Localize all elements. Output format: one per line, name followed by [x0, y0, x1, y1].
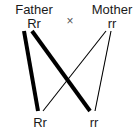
- offspring-genotype-right: rr: [80, 116, 108, 130]
- line-father-to-offspring-right: [32, 31, 90, 111]
- parent-mother-label: Mother: [86, 3, 138, 17]
- parent-mother: Mother rr: [86, 3, 138, 31]
- cross-multiplication-symbol: ×: [56, 15, 84, 27]
- line-mother-to-offspring-left: [43, 31, 106, 111]
- parent-father-genotype: Rr: [8, 17, 60, 31]
- line-mother-to-offspring-right: [95, 31, 111, 111]
- genetic-cross-diagram: Father Rr × Mother rr Rr rr: [0, 0, 138, 137]
- parent-father: Father Rr: [8, 3, 60, 31]
- line-father-to-offspring-left: [24, 31, 38, 111]
- offspring-genotype-left: Rr: [26, 116, 54, 130]
- parent-mother-genotype: rr: [86, 17, 138, 31]
- parent-father-label: Father: [8, 3, 60, 17]
